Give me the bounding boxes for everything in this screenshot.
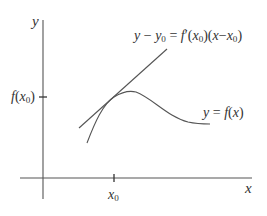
x0-sub: 0 bbox=[114, 193, 119, 203]
curve-equation-label: y = f(x) bbox=[203, 106, 244, 120]
tangent-line bbox=[79, 49, 167, 128]
x0-tick-label: x0 bbox=[108, 188, 119, 203]
tangent-equation-label: y − y0 = f′(x0)(x−x0) bbox=[134, 29, 242, 44]
eq-close: ) bbox=[237, 28, 242, 43]
curve-close: ) bbox=[239, 105, 244, 120]
eq-close-open: )( bbox=[203, 28, 212, 43]
curve-equals: = bbox=[209, 105, 224, 120]
eq-minus: − bbox=[140, 28, 155, 43]
x-axis-label: x bbox=[245, 181, 252, 196]
eq-equals: = bbox=[166, 28, 181, 43]
fx0-tick-label: f(x0) bbox=[11, 90, 35, 105]
y-axis-label: y bbox=[32, 14, 39, 29]
x-axis-label-text: x bbox=[245, 180, 252, 196]
function-curve bbox=[87, 91, 210, 143]
eq-minus2: − bbox=[219, 28, 227, 43]
tangent-line-diagram: y x f(x0) x0 y − y0 = f′(x0)(x−x0) y = f… bbox=[0, 0, 267, 216]
y-axis-label-text: y bbox=[32, 13, 39, 29]
